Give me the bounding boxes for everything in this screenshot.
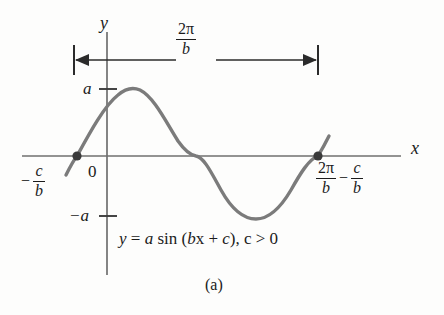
origin-label: 0 xyxy=(88,163,97,180)
y-axis-label: y xyxy=(100,14,108,32)
period-arrowhead-right xyxy=(303,54,317,66)
period-arrowhead-left xyxy=(75,54,89,66)
positive-amplitude-label: a xyxy=(83,80,92,97)
equation-label: y = a sin (bx + c), c > 0 xyxy=(119,230,278,247)
equation-lhs: y xyxy=(119,230,127,247)
left-root-annotation: − c b xyxy=(18,163,45,200)
equation-comma: , xyxy=(235,230,239,247)
equation-arg-x: x xyxy=(196,230,205,247)
right-root-second-denominator: b xyxy=(351,179,363,197)
sine-plot-canvas xyxy=(0,0,444,315)
right-root-second-numerator: c xyxy=(351,160,363,179)
equation-arg-b: b xyxy=(187,230,196,247)
period-numerator: 2π xyxy=(176,21,196,40)
right-root-second-fraction: c b xyxy=(351,160,363,197)
equation-arg-c: c xyxy=(222,230,230,247)
left-root-numerator: c xyxy=(33,163,45,182)
equation-amplitude: a xyxy=(145,230,154,247)
equation-equals: = xyxy=(131,230,141,247)
sine-graph-figure: y x 0 a −a 2π b − c b 2π b − c b y = a s… xyxy=(0,0,444,315)
left-root-sign: − xyxy=(18,173,33,189)
left-root-fraction: c b xyxy=(33,163,45,200)
equation-function: sin xyxy=(157,230,177,247)
equation-plus: + xyxy=(208,230,218,247)
equation-condition-value: 0 xyxy=(270,230,279,247)
right-root-first-numerator: 2π xyxy=(316,160,336,179)
figure-caption: (a) xyxy=(205,277,223,293)
right-root-operator: − xyxy=(336,170,351,186)
equation-condition-variable: c xyxy=(244,230,252,247)
period-fraction: 2π b xyxy=(176,21,196,58)
left-root-denominator: b xyxy=(33,182,45,200)
right-root-annotation: 2π b − c b xyxy=(316,160,363,197)
right-root-first-denominator: b xyxy=(316,179,336,197)
sine-curve xyxy=(66,88,329,219)
root-marker-left xyxy=(72,151,81,160)
negative-amplitude-label: −a xyxy=(69,207,89,224)
period-denominator: b xyxy=(176,40,196,58)
equation-condition-operator: > xyxy=(256,230,266,247)
x-axis-label: x xyxy=(411,139,419,157)
right-root-first-fraction: 2π b xyxy=(316,160,336,197)
period-annotation: 2π b xyxy=(176,21,196,58)
